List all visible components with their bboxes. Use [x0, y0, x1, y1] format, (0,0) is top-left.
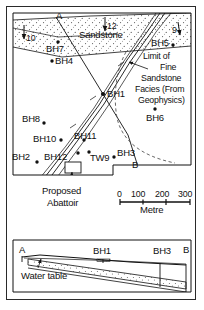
dip-value-9: 9: [172, 26, 177, 35]
section-endpoint-A: A: [19, 245, 25, 255]
borehole-label-BH3: BH3: [117, 148, 135, 158]
borehole-label-TW9: TW9: [90, 153, 109, 163]
borehole-dot-BH1: [101, 92, 105, 96]
borehole-label-BH4: BH4: [55, 56, 73, 66]
borehole-dot-BH10: [59, 138, 62, 141]
abattoir-footprint: [65, 162, 81, 173]
borehole-dot-BH5: [171, 43, 174, 46]
borehole-dot-BH6: [153, 107, 156, 110]
map-section-endpoint-B: B: [132, 160, 138, 170]
facies-note-line-5: Geophysics): [138, 96, 185, 105]
facies-note-line-2: Fine: [160, 63, 176, 72]
abattoir-label-line-2: Abattoir: [47, 198, 78, 208]
dip-value-10: 10: [26, 34, 35, 43]
scalebar-tick-0: 0: [117, 190, 122, 199]
section-marker-BH3: BH3: [153, 246, 171, 256]
borehole-label-BH6: BH6: [146, 113, 164, 123]
abattoir-label-line-1: Proposed: [42, 186, 81, 196]
borehole-label-BH2: BH2: [12, 152, 30, 162]
dip-value-12: 12: [107, 22, 116, 31]
scalebar-tick-200: 200: [155, 190, 169, 199]
facies-note-line-1: Limit of: [143, 52, 170, 61]
borehole-label-BH5: BH5: [151, 38, 169, 48]
scalebar-units-label: Metre: [140, 205, 163, 215]
borehole-label-BH8: BH8: [22, 114, 40, 124]
borehole-label-BH7: BH7: [46, 44, 64, 54]
borehole-dot-BH12: [76, 151, 79, 154]
figure-root: Sandstone 10 12 9 A B Limit of Fine Sand…: [0, 0, 204, 310]
section-endpoint-B: B: [183, 245, 189, 255]
section-marker-BH1: BH1: [93, 246, 111, 256]
borehole-label-BH12: BH12: [44, 152, 67, 162]
facies-note-line-4: Facies (From: [135, 85, 184, 94]
scalebar-tick-100: 100: [131, 190, 145, 199]
scalebar-tick-300: 300: [178, 190, 192, 199]
borehole-label-BH10: BH10: [33, 134, 56, 144]
borehole-label-BH1: BH1: [107, 89, 125, 99]
section-bh1-screen: [97, 259, 110, 262]
borehole-dot-BH2: [35, 160, 38, 163]
borehole-dot-BH3: [112, 155, 115, 158]
facies-note-line-3: Sandstone: [141, 74, 181, 83]
map-section-endpoint-A: A: [56, 11, 62, 21]
borehole-dot-BH4: [50, 59, 53, 62]
borehole-dot-BH8: [42, 121, 45, 124]
abattoir-leader: [71, 172, 72, 185]
map-unit-label-sandstone: Sandstone: [79, 30, 123, 40]
water-table-label: Water table: [21, 271, 67, 281]
borehole-label-BH11: BH11: [74, 131, 96, 141]
